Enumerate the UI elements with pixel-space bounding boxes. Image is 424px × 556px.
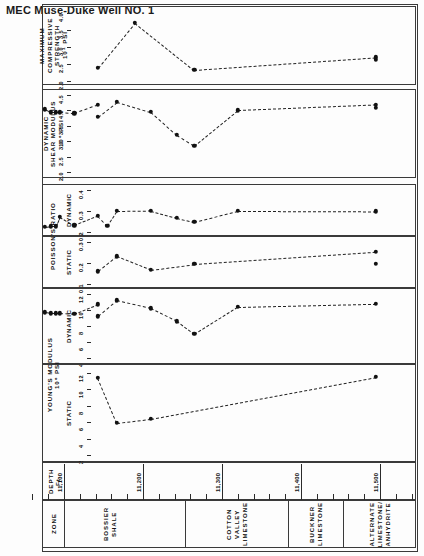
tick-mark-poissons-ratio-dynamic xyxy=(87,190,91,191)
depth-major-tick xyxy=(143,464,144,489)
tick-mark-max-compressive-strength xyxy=(67,30,71,31)
zone-cell: BUCKNER LIMESTONE xyxy=(289,501,344,547)
tick-mark-youngs-modulus-static xyxy=(87,389,91,390)
panel-max-compressive-strength xyxy=(42,6,416,85)
depth-tick-label: 11,300 xyxy=(215,466,221,492)
depth-minor-tick xyxy=(380,489,381,500)
tick-mark-youngs-modulus-static xyxy=(87,439,91,440)
depth-major-tick xyxy=(380,464,381,489)
tick-mark-max-compressive-strength xyxy=(67,64,71,65)
zone-cell: ALTERNATE LIMESTONE/ ANHYDRITE xyxy=(344,501,415,547)
tick-mark-poissons-ratio-static xyxy=(87,284,91,285)
panel-youngs-modulus-dynamic xyxy=(42,288,416,364)
tick-mark-dynamic-shear-modulus xyxy=(67,95,71,96)
tick-label-poissons-ratio-static: 0.2 xyxy=(78,254,84,272)
tick-mark-dynamic-shear-modulus xyxy=(67,110,71,111)
tick-label-poissons-ratio-dynamic: 0.4 xyxy=(78,181,84,199)
depth-tick-label: 11,500 xyxy=(373,466,379,492)
depth-tick-label: 11,400 xyxy=(294,466,300,492)
panel-subtitle-poissons-ratio-dynamic: DYNAMIC xyxy=(62,184,76,236)
depth-major-tick xyxy=(222,464,223,489)
tick-label-dynamic-shear-modulus: 2.0 xyxy=(58,163,64,181)
tick-label-max-compressive-strength: 4.0 xyxy=(58,4,64,22)
well-log-plot: MAXIMUM COMPRESSIVE STRENGTH 10⁴ PSI4.03… xyxy=(0,0,424,556)
tick-mark-youngs-modulus-static xyxy=(87,422,91,423)
chart-sheet: MEC Muse-Duke Well NO. 1 MAXIMUM COMPRES… xyxy=(0,0,424,556)
zone-label: BOSSIER SHALE xyxy=(102,507,118,541)
tick-label-youngs-modulus-static: 4 xyxy=(78,430,84,448)
depth-minor-tick xyxy=(64,489,65,500)
tick-mark-youngs-modulus-static xyxy=(87,373,91,374)
tick-label-poissons-ratio-static: 0.3 xyxy=(78,233,84,251)
tick-mark-poissons-ratio-dynamic xyxy=(87,232,91,233)
tick-mark-dynamic-shear-modulus xyxy=(67,157,71,158)
tick-label-max-compressive-strength: 3.0 xyxy=(58,38,64,56)
tick-mark-youngs-modulus-dynamic xyxy=(87,310,91,311)
tick-label-youngs-modulus-static: 10 xyxy=(78,380,84,398)
tick-mark-youngs-modulus-dynamic xyxy=(87,342,91,343)
tick-mark-poissons-ratio-dynamic xyxy=(87,211,91,212)
tick-mark-dynamic-shear-modulus xyxy=(67,126,71,127)
depth-major-tick xyxy=(64,464,65,489)
panel-poissons-ratio-dynamic xyxy=(42,184,416,236)
tick-mark-max-compressive-strength xyxy=(67,47,71,48)
depth-minor-tick xyxy=(222,489,223,500)
depth-minor-tick xyxy=(301,489,302,500)
zone-cell: COTTON VALLEY LIMESTONE xyxy=(186,501,289,547)
depth-tick-label: 11,100 xyxy=(57,466,63,492)
tick-mark-youngs-modulus-static xyxy=(87,406,91,407)
depth-major-tick xyxy=(301,464,302,489)
tick-mark-youngs-modulus-dynamic xyxy=(87,326,91,327)
panel-subtitle-youngs-modulus-dynamic: DYNAMIC xyxy=(62,288,76,364)
depth-minor-tick xyxy=(32,494,33,500)
depth-tick-label: 11,200 xyxy=(136,466,142,492)
tick-mark-poissons-ratio-static xyxy=(87,242,91,243)
tick-mark-max-compressive-strength xyxy=(67,13,71,14)
tick-mark-dynamic-shear-modulus xyxy=(67,172,71,173)
tick-mark-youngs-modulus-dynamic xyxy=(87,358,91,359)
zone-cell: BOSSIER SHALE xyxy=(35,501,187,547)
tick-label-max-compressive-strength: 3.5 xyxy=(58,21,64,39)
tick-mark-poissons-ratio-static xyxy=(87,263,91,264)
zone-label: BUCKNER LIMESTONE xyxy=(308,502,324,546)
panel-subtitle-poissons-ratio-static: STATIC xyxy=(62,236,76,288)
zone-label: COTTON VALLEY LIMESTONE xyxy=(225,502,249,546)
depth-axis-strip xyxy=(42,462,416,500)
tick-label-max-compressive-strength: 2.5 xyxy=(58,55,64,73)
panel-subtitle-youngs-modulus-static: STATIC xyxy=(62,364,76,462)
tick-label-poissons-ratio-dynamic: 0.3 xyxy=(78,202,84,220)
tick-label-youngs-modulus-static: 6 xyxy=(78,413,84,431)
tick-mark-youngs-modulus-dynamic xyxy=(87,294,91,295)
depth-minor-tick xyxy=(143,489,144,500)
tick-mark-youngs-modulus-static xyxy=(87,455,91,456)
zone-label: ALTERNATE LIMESTONE/ ANHYDRITE xyxy=(368,501,392,548)
tick-mark-dynamic-shear-modulus xyxy=(67,141,71,142)
tick-mark-max-compressive-strength xyxy=(67,81,71,82)
